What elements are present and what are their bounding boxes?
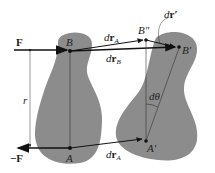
rigid-body-motion-diagram: F −F B A r B″ B′ A′ drA drB dr′ dθ drA (0, 0, 215, 173)
label-B-prime: B′ (182, 44, 192, 56)
point-B-double-prime (144, 38, 148, 42)
point-A (68, 146, 72, 150)
label-dtheta: dθ (149, 90, 161, 102)
label-dr-A-bottom: drA (106, 148, 121, 162)
label-B-double-prime: B″ (138, 24, 150, 36)
label-dr-A-top: drA (104, 31, 119, 45)
label-B: B (66, 36, 73, 48)
label-F: F (16, 36, 23, 48)
point-B-prime (177, 45, 181, 49)
label-minus-F: −F (10, 152, 23, 164)
label-dr-prime: dr′ (164, 8, 177, 20)
label-A: A (65, 152, 73, 164)
point-B (68, 49, 72, 53)
label-A-prime: A′ (146, 142, 157, 154)
label-r: r (23, 94, 28, 106)
label-dr-B: drB (106, 52, 121, 66)
